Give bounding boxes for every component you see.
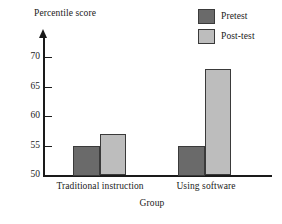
bar-pretest-traditional — [73, 146, 100, 176]
y-axis-arrow-icon — [39, 29, 47, 38]
y-tick-65: 65 — [45, 87, 52, 88]
legend-swatch-pretest — [198, 9, 215, 24]
x-axis-title: Group — [0, 198, 282, 208]
x-category-label-1: Using software — [160, 181, 252, 191]
bar-chart: Percentile score 70 65 60 55 50 Traditio… — [0, 0, 282, 224]
y-tick-50: 50 — [45, 175, 52, 176]
legend-label-pretest: Pretest — [221, 11, 248, 21]
legend-item-posttest[interactable]: Post-test — [198, 27, 255, 45]
legend-swatch-posttest — [198, 29, 215, 44]
legend-label-posttest: Post-test — [221, 31, 255, 41]
bar-pretest-software — [178, 146, 205, 176]
bar-posttest-traditional — [100, 134, 127, 175]
y-tick-70: 70 — [45, 57, 52, 58]
y-tick-55: 55 — [45, 146, 52, 147]
x-category-label-0: Traditional instruction — [44, 181, 156, 191]
y-tick-label-70: 70 — [31, 50, 41, 63]
bar-posttest-software — [205, 69, 232, 176]
y-tick-label-55: 55 — [31, 139, 41, 152]
y-tick-label-50: 50 — [31, 168, 41, 181]
legend: Pretest Post-test — [198, 7, 255, 47]
y-tick-label-65: 65 — [31, 80, 41, 93]
x-axis-title-text: Group — [118, 198, 165, 208]
y-axis-title: Percentile score — [34, 8, 96, 18]
legend-item-pretest[interactable]: Pretest — [198, 7, 255, 25]
y-tick-label-60: 60 — [31, 109, 41, 122]
y-tick-60: 60 — [45, 116, 52, 117]
